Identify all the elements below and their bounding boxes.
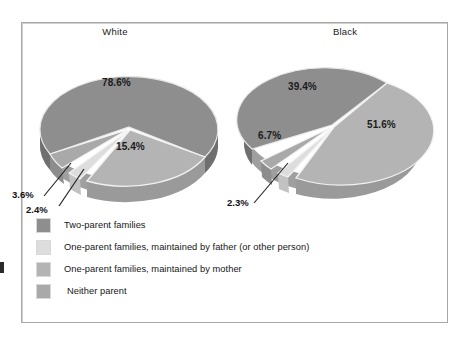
legend: Two-parent families One-parent families,…	[36, 215, 436, 315]
legend-item-neither-parent: Neither parent	[36, 283, 436, 299]
legend-swatch-one-parent-mother	[36, 262, 51, 277]
legend-swatch-neither-parent	[36, 284, 51, 299]
legend-label-neither-parent: Neither parent	[67, 286, 127, 296]
legend-item-one-parent-mother: One-parent families, maintained by mothe…	[36, 261, 436, 277]
pie-black-value-neither: 2.3%	[227, 197, 249, 208]
pie-black-svg	[230, 41, 440, 206]
figure-page: White	[0, 0, 468, 345]
legend-swatch-two-parent-families	[36, 218, 51, 233]
legend-label-two-parent-families: Two-parent families	[64, 220, 146, 230]
figure-frame: White	[21, 22, 448, 323]
pie-white-value-neither: 2.4%	[26, 204, 48, 215]
pie-black-value-two-parent: 39.4%	[288, 81, 317, 92]
pie-black-wrap: 39.4% 51.6% 6.7% 2.3%	[230, 41, 440, 206]
chart-title-white: White	[10, 26, 220, 37]
legend-item-one-parent-father: One-parent families, maintained by fathe…	[36, 239, 436, 255]
charts-row: White	[22, 23, 449, 213]
pie-white-value-two-parent: 78.6%	[102, 77, 131, 88]
pie-black-value-father: 6.7%	[258, 130, 281, 141]
pie-chart-white: White	[24, 23, 234, 213]
pie-black-value-mother: 51.6%	[367, 119, 396, 130]
legend-label-one-parent-father: One-parent families, maintained by fathe…	[64, 242, 309, 252]
pie-white-wrap: 78.6% 15.4% 3.6% 2.4%	[24, 41, 234, 206]
chart-title-black: Black	[240, 26, 450, 37]
pie-chart-black: Black	[230, 23, 440, 213]
pie-white-value-mother: 15.4%	[116, 141, 145, 152]
pie-white-svg	[24, 41, 234, 206]
legend-item-two-parent-families: Two-parent families	[36, 217, 436, 233]
legend-label-one-parent-mother: One-parent families, maintained by mothe…	[64, 264, 242, 274]
legend-swatch-one-parent-father	[36, 240, 51, 255]
page-edge-artifact	[0, 262, 4, 273]
pie-white-value-father: 3.6%	[12, 189, 34, 200]
